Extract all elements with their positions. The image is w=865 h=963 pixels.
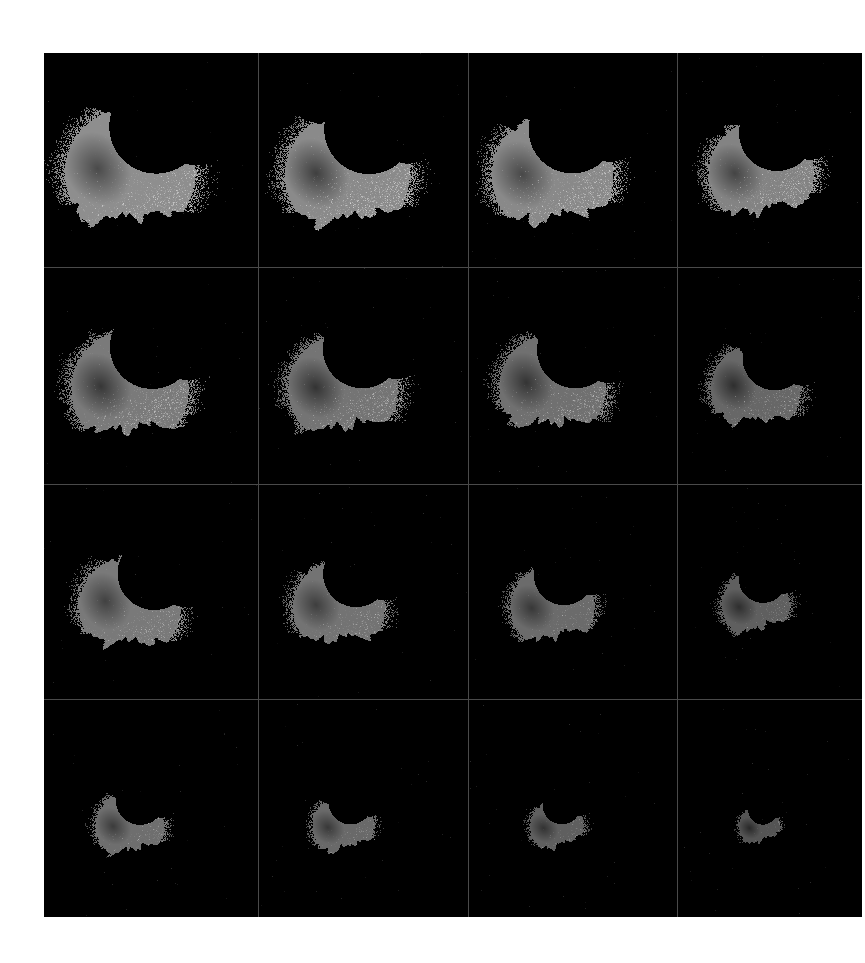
montage-panel-r2-c1 xyxy=(44,268,259,485)
particle-image-12 xyxy=(678,485,862,699)
particle-image-9 xyxy=(44,485,258,699)
particle-image-16 xyxy=(678,700,862,917)
montage-panel-r2-c2 xyxy=(259,268,469,485)
montage-panel-r3-c3 xyxy=(469,485,678,700)
particle-image-11 xyxy=(469,485,677,699)
montage-panel-r1-c1 xyxy=(44,53,259,268)
particle-image-10 xyxy=(259,485,468,699)
montage-panel-r3-c2 xyxy=(259,485,469,700)
particle-image-15 xyxy=(469,700,677,917)
particle-image-4 xyxy=(678,53,862,267)
particle-image-8 xyxy=(678,268,862,484)
montage-grid xyxy=(44,53,862,917)
particle-image-6 xyxy=(259,268,468,484)
particle-image-2 xyxy=(259,53,468,267)
montage-panel-r2-c4 xyxy=(678,268,862,485)
particle-image-13 xyxy=(44,700,258,917)
montage-panel-r4-c2 xyxy=(259,700,469,917)
montage-panel-r2-c3 xyxy=(469,268,678,485)
particle-image-7 xyxy=(469,268,677,484)
montage-panel-r1-c3 xyxy=(469,53,678,268)
montage-panel-r4-c1 xyxy=(44,700,259,917)
montage-panel-r4-c3 xyxy=(469,700,678,917)
montage-panel-r3-c4 xyxy=(678,485,862,700)
particle-image-5 xyxy=(44,268,258,484)
particle-image-14 xyxy=(259,700,468,917)
montage-panel-r1-c4 xyxy=(678,53,862,268)
particle-image-3 xyxy=(469,53,677,267)
montage-panel-r3-c1 xyxy=(44,485,259,700)
montage-panel-r4-c4 xyxy=(678,700,862,917)
montage-panel-r1-c2 xyxy=(259,53,469,268)
particle-image-1 xyxy=(44,53,258,267)
